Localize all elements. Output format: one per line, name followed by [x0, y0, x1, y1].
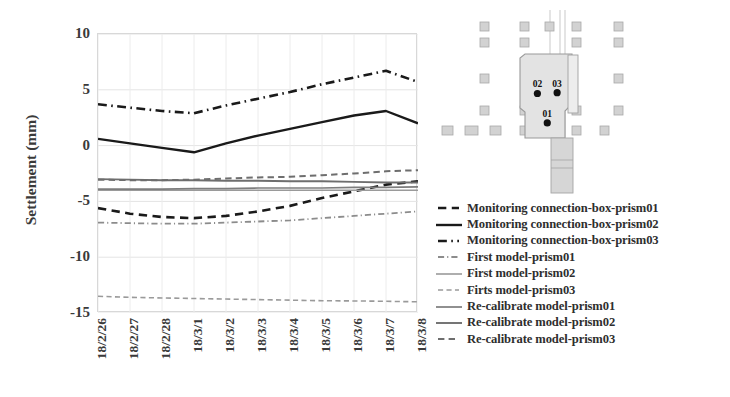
prism-marker-label: 01	[543, 109, 553, 119]
y-tick-label: 5	[83, 80, 91, 97]
legend-item[interactable]: First model-prism02	[436, 266, 728, 282]
y-tick-label: -15	[70, 304, 90, 321]
legend-item[interactable]: Monitoring connection-box-prism03	[436, 233, 728, 249]
legend-item-label: First model-prism01	[467, 250, 575, 265]
x-tick-label: 18/2/26	[94, 318, 110, 359]
legend-item-label: Re-calibrate model-prism01	[467, 299, 615, 314]
prism-marker-label: 02	[533, 79, 543, 89]
prism-marker-dot	[534, 90, 541, 97]
x-tick-label: 18/2/27	[126, 318, 142, 359]
legend-item-label: Monitoring connection-box-prism03	[467, 233, 659, 248]
legend-item-label: First model-prism02	[467, 266, 575, 281]
x-tick-label: 18/3/2	[222, 318, 238, 353]
legend-item-label: Monitoring connection-box-prism01	[467, 201, 659, 216]
legend-item[interactable]: Re-calibrate model-prism02	[436, 315, 728, 331]
legend-line-swatch	[436, 202, 462, 214]
x-tick-label: 18/3/6	[350, 318, 366, 353]
settlement-chart: Settlement (mm) 1050-5-10-15 18/2/2618/2…	[0, 0, 430, 397]
y-tick-label: -10	[70, 248, 90, 265]
prism-marker-dot	[544, 119, 551, 126]
y-tick-label: 0	[83, 136, 91, 153]
gridlines	[98, 34, 418, 313]
x-tick-label: 18/3/3	[254, 318, 270, 353]
legend-item[interactable]: Re-calibrate model-prism03	[436, 331, 728, 347]
legend-item[interactable]: First model-prism01	[436, 249, 728, 265]
prism-marker-dot	[554, 89, 561, 96]
floor-plan-drawing: 020301	[432, 8, 728, 198]
legend-item[interactable]: Re-calibrate model-prism01	[436, 298, 728, 314]
plan-side-shaft	[568, 55, 578, 113]
x-tick-label: 18/3/1	[190, 318, 206, 353]
series-line	[98, 187, 418, 189]
legend-item-label: Monitoring connection-box-prism02	[467, 217, 659, 232]
legend-item[interactable]: Monitoring connection-box-prism02	[436, 216, 728, 232]
plan-corridor	[551, 138, 573, 193]
site-floor-plan: 020301	[432, 8, 728, 198]
legend-line-swatch	[436, 284, 462, 296]
legend-line-swatch	[436, 301, 462, 313]
legend-line-swatch	[436, 317, 462, 329]
legend-item-label: Re-calibrate model-prism03	[467, 332, 615, 347]
plot-canvas	[98, 34, 418, 313]
prism-marker-label: 03	[552, 79, 562, 89]
legend-item[interactable]: Monitoring connection-box-prism01	[436, 200, 728, 216]
chart-legend: Monitoring connection-box-prism01Monitor…	[436, 200, 728, 348]
plot-wrapper: 1050-5-10-15 18/2/2618/2/2718/2/2818/3/1…	[97, 33, 417, 312]
legend-item-label: Re-calibrate model-prism02	[467, 315, 615, 330]
x-tick-label: 18/3/7	[382, 318, 398, 353]
x-tick-label: 18/2/28	[158, 318, 174, 359]
legend-line-swatch	[436, 219, 462, 231]
x-tick-label: 18/3/4	[286, 318, 302, 353]
x-tick-label: 18/3/5	[318, 318, 334, 353]
legend-line-swatch	[436, 333, 462, 345]
legend-line-swatch	[436, 251, 462, 263]
x-tick-label: 18/3/8	[414, 318, 430, 353]
plot-area	[97, 33, 417, 312]
legend-item[interactable]: Firts model-prism03	[436, 282, 728, 298]
legend-item-label: Firts model-prism03	[467, 283, 575, 298]
y-tick-label: 10	[75, 25, 90, 42]
legend-line-swatch	[436, 235, 462, 247]
y-axis-title: Settlement (mm)	[20, 70, 42, 270]
figure-root: Settlement (mm) 1050-5-10-15 18/2/2618/2…	[0, 0, 730, 397]
legend-line-swatch	[436, 268, 462, 280]
y-tick-label: -5	[78, 192, 91, 209]
y-axis-title-label: Settlement (mm)	[22, 115, 40, 226]
